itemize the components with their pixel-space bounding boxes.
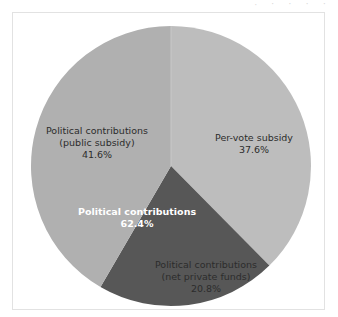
cropped-page-text-artifact: · ˑ ˑ ˑ ˑ xyxy=(0,0,338,9)
pie-label-total-contributions-value: 62.4% xyxy=(59,218,215,230)
pie-label-public-subsidy: Political contributions (public subsidy)… xyxy=(27,125,167,161)
pie-chart: Political contributions (public subsidy)… xyxy=(13,13,326,311)
figure-panel: Political contributions (public subsidy)… xyxy=(12,12,325,310)
pie-label-net-private-funds: Political contributions (net private fun… xyxy=(133,259,279,295)
pie-label-net-private-funds-line1: Political contributions xyxy=(133,259,279,271)
pie-label-per-vote-subsidy-value: 37.6% xyxy=(191,144,317,156)
pie-label-total-political-contributions: Political contributions 62.4% xyxy=(59,206,215,230)
pie-label-public-subsidy-line1: Political contributions xyxy=(27,125,167,137)
pie-label-public-subsidy-line2: (public subsidy) xyxy=(27,137,167,149)
pie-label-per-vote-subsidy-line1: Per-vote subsidy xyxy=(191,132,317,144)
pie-label-per-vote-subsidy: Per-vote subsidy 37.6% xyxy=(191,132,317,156)
pie-label-total-contributions-line1: Political contributions xyxy=(59,206,215,218)
pie-label-net-private-funds-value: 20.8% xyxy=(133,283,279,295)
pie-label-net-private-funds-line2: (net private funds) xyxy=(133,271,279,283)
pie-label-public-subsidy-value: 41.6% xyxy=(27,149,167,161)
